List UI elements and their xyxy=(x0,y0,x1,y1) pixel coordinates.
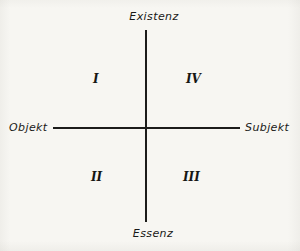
quadrant-diagram: Existenz Essenz Objekt Subjekt I IV II I… xyxy=(0,0,300,251)
quadrant-numeral-lower-left: II xyxy=(91,171,102,183)
quadrant-numeral-upper-right: IV xyxy=(186,73,201,85)
axis-label-objekt: Objekt xyxy=(9,122,48,133)
quadrant-numeral-lower-right: III xyxy=(183,171,200,183)
horizontal-axis-line xyxy=(53,127,240,129)
axis-label-subjekt: Subjekt xyxy=(245,122,289,133)
vertical-axis-line xyxy=(145,30,147,222)
quadrant-numeral-upper-left: I xyxy=(93,73,99,85)
axis-label-existenz: Existenz xyxy=(0,11,300,22)
axis-label-essenz: Essenz xyxy=(0,228,300,239)
